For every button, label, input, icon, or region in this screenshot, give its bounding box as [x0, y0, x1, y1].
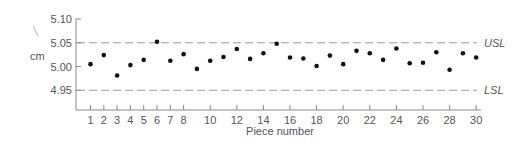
data-point — [407, 61, 412, 66]
data-point — [368, 51, 373, 56]
lsl-label: LSL — [484, 84, 504, 96]
x-tick-label: 30 — [470, 114, 482, 126]
x-tick-label: 22 — [364, 114, 376, 126]
data-point — [461, 51, 466, 56]
x-tick-label: 7 — [167, 114, 173, 126]
data-point — [314, 64, 319, 69]
x-tick-label: 28 — [443, 114, 455, 126]
x-tick-label: 26 — [417, 114, 429, 126]
x-tick-label: 10 — [204, 114, 216, 126]
data-point — [102, 53, 107, 58]
data-point — [434, 50, 439, 55]
data-point — [181, 52, 186, 57]
data-point — [221, 55, 226, 60]
data-point — [208, 59, 213, 64]
data-points — [88, 40, 478, 78]
x-tick-label: 2 — [101, 114, 107, 126]
data-point — [288, 55, 293, 60]
control-chart: 5.105.055.004.95 12345678101214161820222… — [0, 0, 526, 149]
data-point — [128, 63, 133, 68]
y-tick-label: 5.10 — [51, 13, 72, 25]
specification-limits: USLLSL — [77, 37, 505, 97]
data-point — [474, 55, 479, 60]
x-tick-label: 4 — [127, 114, 133, 126]
data-point — [341, 62, 346, 67]
y-tick-label: 5.00 — [51, 61, 72, 73]
ylabel-pointer-mark — [33, 26, 38, 36]
data-point — [195, 67, 200, 72]
y-axis-title: cm — [30, 50, 45, 62]
data-point — [115, 73, 120, 78]
y-tick-label: 5.05 — [51, 37, 72, 49]
data-point — [155, 40, 160, 45]
data-point — [261, 51, 266, 56]
usl-label: USL — [484, 37, 505, 49]
x-tick-label: 6 — [154, 114, 160, 126]
data-point — [447, 68, 452, 73]
data-point — [381, 58, 386, 63]
data-point — [421, 60, 426, 65]
x-tick-label: 3 — [114, 114, 120, 126]
data-point — [235, 47, 240, 52]
data-point — [168, 59, 173, 64]
data-point — [88, 62, 93, 67]
x-tick-label: 1 — [87, 114, 93, 126]
data-point — [141, 58, 146, 63]
data-point — [354, 49, 359, 54]
x-tick-label: 20 — [337, 114, 349, 126]
data-point — [248, 57, 253, 62]
x-tick-label: 24 — [390, 114, 402, 126]
x-tick-label: 8 — [181, 114, 187, 126]
y-tick-label: 4.95 — [51, 84, 72, 96]
data-point — [274, 41, 279, 46]
x-axis: 123456781012141618202224262830 — [76, 105, 482, 126]
data-point — [394, 46, 399, 51]
y-axis: 5.105.055.004.95 — [51, 13, 81, 110]
x-axis-title: Piece number — [246, 125, 314, 137]
data-point — [301, 56, 306, 61]
data-point — [328, 53, 333, 58]
x-tick-label: 12 — [231, 114, 243, 126]
x-tick-label: 5 — [141, 114, 147, 126]
